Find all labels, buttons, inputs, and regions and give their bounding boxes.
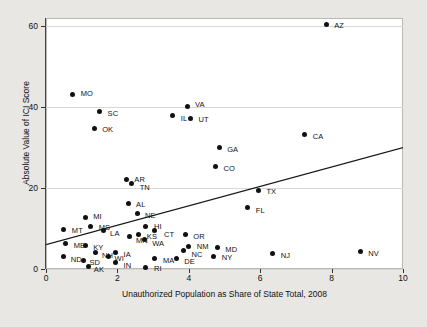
y-tick-label-0: 0	[16, 265, 38, 274]
x-tick-label-0: 0	[35, 274, 57, 283]
point-label-co: CO	[224, 165, 235, 173]
data-point-ok	[92, 126, 97, 131]
x-tick-label-2: 2	[106, 274, 128, 283]
data-point-sd	[81, 258, 86, 263]
y-tick-mark-20	[41, 188, 45, 189]
point-label-al: AL	[136, 201, 145, 209]
y-tick-mark-60	[41, 26, 45, 27]
point-label-fl: FL	[256, 207, 265, 215]
point-label-tx: TX	[266, 188, 276, 196]
data-point-mn	[127, 234, 132, 239]
point-label-va: VA	[195, 101, 205, 109]
x-axis-title: Unauthorized Population as Share of Stat…	[46, 289, 403, 299]
data-point-nh	[93, 250, 98, 255]
data-point-ga	[217, 145, 222, 150]
point-label-or: OR	[193, 233, 204, 241]
x-tick-label-6: 6	[249, 274, 271, 283]
point-label-la: LA	[110, 230, 119, 238]
y-tick-mark-40	[41, 107, 45, 108]
data-point-ne	[135, 211, 140, 216]
point-label-ny: NY	[222, 254, 233, 262]
x-tick-label-10: 10	[392, 274, 414, 283]
point-label-ok: OK	[102, 126, 113, 134]
data-point-tx	[256, 188, 261, 193]
data-point-ca	[302, 132, 307, 137]
data-point-al	[126, 201, 131, 206]
data-point-nj	[270, 251, 275, 256]
data-point-ak	[86, 264, 91, 269]
y-tick-label-60: 60	[16, 22, 38, 31]
point-label-ma: MA	[163, 257, 174, 265]
data-point-va	[185, 104, 190, 109]
point-label-il: IL	[181, 115, 187, 123]
y-axis-title: Absolute Value of ICI Score	[21, 43, 31, 223]
point-label-nj: NJ	[281, 252, 290, 260]
point-label-mo: MO	[81, 90, 93, 98]
data-point-nd	[61, 254, 66, 259]
data-point-md	[215, 245, 220, 250]
x-tick-label-4: 4	[178, 274, 200, 283]
point-label-az: AZ	[334, 22, 344, 30]
point-label-ia: IA	[124, 251, 131, 259]
scatter-points-layer: AZMOVASCILUTOKCAGACOARTNTXALFLNEMIMSHICT…	[46, 18, 403, 269]
point-label-ct: CT	[164, 231, 174, 239]
y-tick-mark-0	[41, 269, 45, 270]
data-point-wi	[106, 254, 111, 259]
data-point-ms	[88, 224, 93, 229]
data-point-de	[174, 256, 179, 261]
data-point-mi	[83, 215, 88, 220]
data-point-co	[213, 164, 218, 169]
data-point-mt	[61, 227, 66, 232]
point-label-ne: NE	[145, 212, 156, 220]
data-point-ny	[211, 254, 216, 259]
data-point-nv	[358, 249, 363, 254]
data-point-fl	[245, 205, 250, 210]
scatter-plot-figure: 0204060 0246810 AZMOVASCILUTOKCAGACOARTN…	[0, 0, 427, 327]
point-label-mt: MT	[72, 227, 83, 235]
point-label-de: DE	[184, 258, 195, 266]
data-point-ma	[152, 256, 157, 261]
point-label-wa: WA	[152, 240, 164, 248]
point-label-mi: MI	[93, 213, 102, 221]
data-point-ky	[83, 243, 88, 248]
point-label-ca: CA	[313, 133, 324, 141]
data-point-hi	[143, 224, 148, 229]
point-label-tn: TN	[140, 184, 150, 192]
point-label-ga: GA	[227, 146, 238, 154]
data-point-la	[101, 228, 106, 233]
data-point-me	[63, 241, 68, 246]
data-point-sc	[97, 109, 102, 114]
data-point-or	[183, 232, 188, 237]
data-point-il	[170, 113, 175, 118]
point-label-ut: UT	[199, 116, 209, 124]
data-point-ar	[124, 177, 129, 182]
x-tick-label-8: 8	[321, 274, 343, 283]
point-label-sc: SC	[108, 110, 119, 118]
data-point-ut	[188, 116, 193, 121]
point-label-ak: AK	[94, 266, 104, 274]
data-point-mo	[70, 92, 75, 97]
data-point-tn	[129, 181, 134, 186]
data-point-az	[324, 22, 329, 27]
point-label-nv: NV	[368, 250, 379, 258]
point-label-in: IN	[124, 262, 132, 270]
data-point-nc	[181, 248, 186, 253]
data-point-nm	[186, 244, 191, 249]
point-label-ri: RI	[154, 265, 162, 273]
data-point-in	[113, 260, 118, 265]
